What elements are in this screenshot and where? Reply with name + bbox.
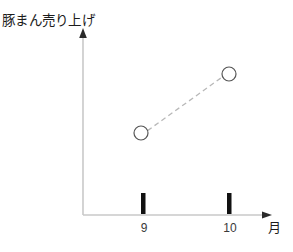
x-tick-mark-9 — [141, 193, 146, 214]
data-point-marker-10[interactable] — [222, 67, 236, 81]
x-tick-mark-10 — [227, 193, 232, 214]
y-axis-arrow-icon — [79, 28, 87, 38]
data-point-marker-9[interactable] — [134, 126, 148, 140]
x-tick-label-9: 9 — [141, 222, 148, 234]
y-axis-title: 豚まん売り上げ — [2, 14, 95, 28]
series-line-segment — [148, 77, 223, 131]
x-tick-label-10: 10 — [223, 222, 236, 234]
x-axis-arrow-icon — [262, 211, 272, 218]
x-axis-title: 月 — [268, 221, 281, 234]
chart-figure: 豚まん売り上げ 月 9 10 — [0, 0, 293, 252]
line-chart-canvas — [0, 0, 293, 252]
